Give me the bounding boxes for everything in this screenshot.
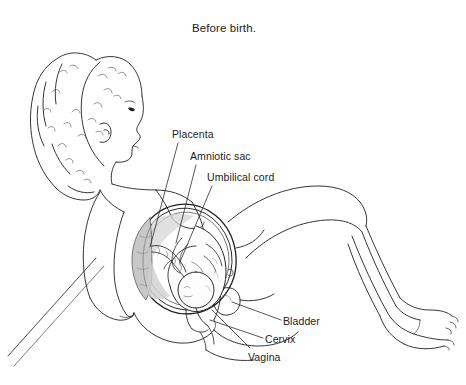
label-cervix: Cervix (265, 333, 295, 345)
fetus (164, 226, 226, 312)
arm (83, 192, 134, 320)
lower-leg (348, 226, 400, 316)
label-umbilical-cord: Umbilical cord (207, 171, 274, 183)
line-art-group (8, 53, 458, 366)
feet (380, 298, 458, 350)
head-profile (100, 96, 143, 184)
thigh (228, 186, 367, 258)
support-surface (8, 258, 104, 366)
hip-and-pelvis (236, 230, 274, 301)
leader-line-bladder (232, 302, 281, 320)
figure-container: Before birth. (0, 0, 466, 385)
leader-line-cervix (210, 320, 263, 338)
label-bladder: Bladder (283, 315, 320, 327)
label-vagina: Vagina (248, 351, 281, 363)
anatomical-illustration (0, 0, 466, 385)
hair (30, 53, 142, 200)
label-amniotic-sac: Amniotic sac (190, 150, 251, 162)
neck-and-shoulder (100, 184, 192, 212)
label-placenta: Placenta (172, 128, 214, 140)
leader-line-vagina (212, 310, 250, 348)
